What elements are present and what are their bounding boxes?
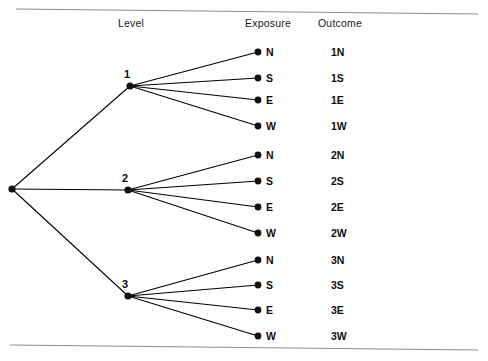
level-label-2: 2 [122,172,128,184]
exposure-label-2W: W [266,227,276,239]
branch-root-to-level-2 [12,189,128,190]
top-rule [16,9,478,14]
level-node-dot-2 [124,186,131,193]
leaf-node-dot-1E [255,97,262,104]
exposure-label-3E: E [266,304,273,316]
leaf-node-dot-1N [255,49,262,56]
outcome-label-1S: 1S [331,72,344,84]
branch-level-1-to-W [130,86,258,126]
branch-level-2-to-E [128,190,258,207]
outcome-label-3E: 3E [331,304,344,316]
column-headers: LevelExposureOutcome [118,17,362,29]
tree-diagram-canvas: LevelExposureOutcome 123N1NS1SE1EW1WN2NS… [0,0,488,361]
exposure-label-3W: W [266,330,276,342]
level-node-dot-3 [124,292,131,299]
frame-rules [10,9,478,350]
leaf-node-dot-2E [255,204,262,211]
branch-level-2-to-S [128,181,258,190]
level-label-3: 3 [122,278,128,290]
outcome-label-1W: 1W [331,120,347,132]
branch-level-2-to-W [128,190,258,233]
leaf-node-dot-3E [255,307,262,314]
branch-level-1-to-N [130,52,258,86]
outcome-label-1N: 1N [331,46,344,58]
leaf-node-dot-2S [255,178,262,185]
exposure-label-1S: S [266,72,273,84]
leaf-node-dot-1S [255,75,262,82]
branch-lines [12,52,258,336]
outcome-label-3N: 3N [331,254,344,266]
leaf-node-dot-3N [255,257,262,264]
column-header-exposure: Exposure [245,17,291,29]
level-node-dot-1 [126,82,133,89]
column-header-level: Level [118,17,144,29]
branch-root-to-level-1 [12,86,130,189]
outcome-label-2N: 2N [331,149,344,161]
column-header-outcome: Outcome [318,17,362,29]
outcome-label-2E: 2E [331,201,344,213]
leaf-node-dot-1W [255,123,262,130]
exposure-label-2N: N [266,149,274,161]
branch-level-1-to-S [130,78,258,86]
outcome-label-3S: 3S [331,279,344,291]
branch-level-3-to-W [128,296,258,336]
leaf-node-dot-2N [255,152,262,159]
outcome-label-2S: 2S [331,175,344,187]
level-label-1: 1 [124,68,130,80]
exposure-label-2S: S [266,175,273,187]
exposure-label-3S: S [266,279,273,291]
branch-level-2-to-N [128,155,258,190]
tree-diagram-figure: LevelExposureOutcome 123N1NS1SE1EW1WN2NS… [0,0,488,361]
outcome-label-1E: 1E [331,94,344,106]
exposure-label-1W: W [266,120,276,132]
branch-root-to-level-3 [12,189,128,296]
exposure-label-2E: E [266,201,273,213]
branch-level-3-to-E [128,296,258,310]
outcome-label-2W: 2W [331,227,347,239]
root-node-dot [8,185,15,192]
leaf-node-dot-3W [255,333,262,340]
outcome-label-3W: 3W [331,330,347,342]
leaf-node-dot-3S [255,282,262,289]
branch-level-1-to-E [130,86,258,100]
bottom-rule [10,345,478,350]
leaf-node-dot-2W [255,230,262,237]
exposure-label-3N: N [266,254,274,266]
exposure-label-1N: N [266,46,274,58]
exposure-label-1E: E [266,94,273,106]
